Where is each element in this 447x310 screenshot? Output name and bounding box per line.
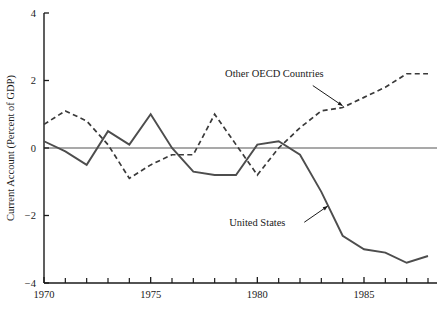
x-axis-tick-label: 1970: [34, 289, 55, 300]
chart-background: [0, 0, 447, 310]
x-axis-tick-label: 1985: [354, 289, 375, 300]
y-axis-tick-label: −2: [25, 210, 36, 221]
x-axis-tick-label: 1980: [247, 289, 268, 300]
united-states-label: United States: [229, 217, 285, 228]
x-axis-tick-label: 1975: [140, 289, 161, 300]
y-axis-tick-label: 0: [31, 143, 36, 154]
chart-figure: 420−2−4 1970197519801985 Current Account…: [0, 0, 447, 310]
y-axis-tick-label: 4: [31, 8, 37, 19]
y-axis-title: Current Account (Percent of GDP): [5, 75, 17, 221]
y-axis-tick-label: 2: [31, 75, 36, 86]
other-oecd-countries-label: Other OECD Countries: [225, 68, 324, 79]
y-axis-tick-label: −4: [25, 278, 37, 289]
line-chart-canvas: 420−2−4 1970197519801985 Current Account…: [0, 0, 447, 310]
